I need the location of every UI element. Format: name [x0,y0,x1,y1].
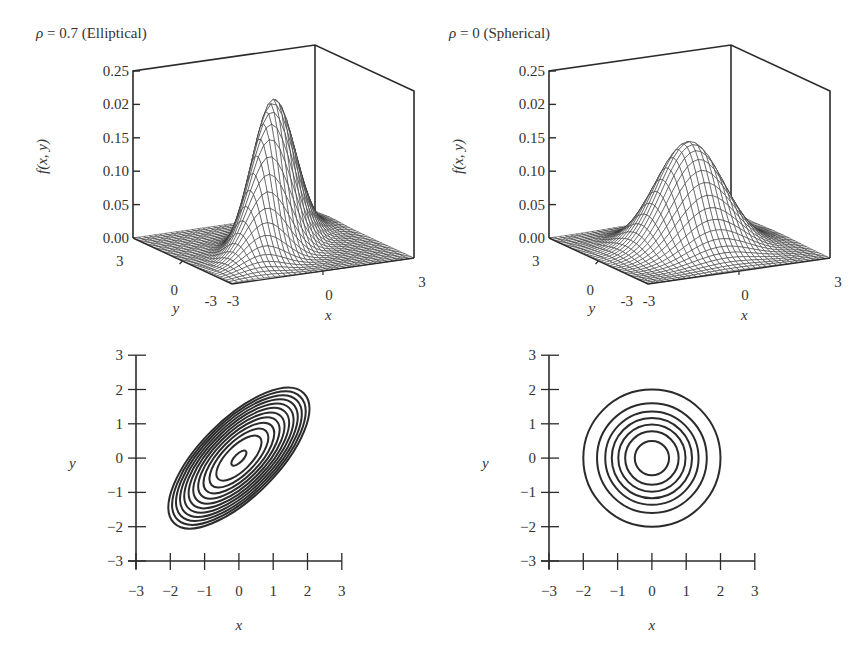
x-tick-label: 0 [741,287,749,303]
y-axis-label: y [67,455,76,471]
y-tick-label: -3 [205,293,218,309]
y-tick-label: 1 [529,416,537,432]
x-tick-label: -3 [227,293,240,309]
surface-mesh [133,99,414,283]
x-tick-label: -3 [643,293,656,309]
contour-lines [147,366,331,550]
y-axis-label: y [587,300,596,316]
y-tick-label: 0 [529,450,537,466]
contour-plot-spherical: −3−3−2−2−1−100112233yx [480,347,759,633]
x-axis-label: x [648,617,656,633]
y-axis-label: y [480,455,489,471]
z-tick-label: 0.00 [103,230,129,246]
z-axis-label: f(x, y) [450,139,467,174]
y-tick-label: 2 [116,382,124,398]
z-tick-label: 0.25 [103,63,129,79]
z-tick-label: 0.00 [519,230,545,246]
y-tick-label: 0 [587,282,595,298]
y-tick-label: 3 [532,253,540,269]
contour-ring [625,431,679,485]
z-tick-label: 0.10 [519,163,545,179]
x-tick-label: 0 [235,583,243,599]
x-tick-label: 1 [269,583,277,599]
x-tick-label: 2 [304,583,312,599]
contour-plot-elliptical: −3−3−2−2−1−100112233yx [67,347,346,633]
contour-ring [157,376,321,540]
x-tick-label: 3 [834,274,842,290]
z-tick-label: 0.05 [519,197,545,213]
x-tick-label: −1 [197,583,213,599]
x-tick-label: 3 [751,583,759,599]
x-tick-label: −2 [575,583,591,599]
surface-mesh [549,142,830,284]
x-axis-label: x [235,617,243,633]
y-tick-label: 1 [116,416,124,432]
contour-ring [147,366,331,550]
y-tick-label: −3 [107,553,123,569]
x-tick-label: 3 [418,274,426,290]
contour-ring [162,381,316,535]
contour-ring [612,418,692,498]
x-tick-label: −1 [610,583,626,599]
figure-canvas: 0.000.050.100.150.020.25f(x, y)30-3-303y… [0,0,864,660]
contour-ring [618,424,685,491]
y-tick-label: 3 [116,347,124,363]
z-tick-label: 0.15 [519,130,545,146]
z-tick-label: 0.05 [103,197,129,213]
x-axis-label: x [740,307,748,323]
contour-ring [186,405,292,511]
y-tick-label: -3 [621,293,634,309]
y-tick-label: 3 [529,347,537,363]
x-tick-label: 1 [682,583,690,599]
y-axis-label: y [171,300,180,316]
contour-ring [229,448,249,468]
x-tick-label: −3 [541,583,557,599]
z-tick-label: 0.02 [519,96,545,112]
y-tick-label: 3 [116,253,124,269]
contour-ring [152,371,326,545]
y-tick-label: −3 [520,553,536,569]
x-tick-label: 0 [325,287,333,303]
contour-ring [635,441,669,475]
y-tick-label: −2 [107,519,123,535]
x-tick-label: −2 [162,583,178,599]
z-tick-label: 0.25 [519,63,545,79]
x-axis-label: x [324,307,332,323]
x-tick-label: −3 [128,583,144,599]
contour-ring [597,403,707,513]
z-axis-label: f(x, y) [34,139,51,174]
y-tick-label: −1 [107,484,123,500]
y-tick-label: 2 [529,382,537,398]
contour-lines [583,390,720,527]
x-tick-label: 2 [717,583,725,599]
z-tick-label: 0.10 [103,163,129,179]
y-tick-label: −2 [520,519,536,535]
z-tick-label: 0.15 [103,130,129,146]
y-tick-label: −1 [520,484,536,500]
y-tick-label: 0 [171,282,179,298]
surface-plot-elliptical: 0.000.050.100.150.020.25f(x, y)30-3-303y… [34,45,426,323]
x-tick-label: 3 [338,583,346,599]
contour-ring [583,390,720,527]
surface-plot-spherical: 0.000.050.100.150.020.25f(x, y)30-3-303y… [450,45,842,323]
x-tick-label: 0 [648,583,656,599]
z-tick-label: 0.02 [103,96,129,112]
y-tick-label: 0 [116,450,124,466]
